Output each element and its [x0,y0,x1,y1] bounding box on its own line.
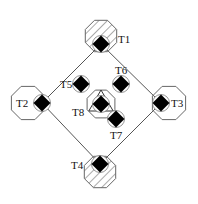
t2-label: T2 [16,97,28,109]
t7-label: T7 [110,129,123,141]
t6-label: T6 [115,64,128,76]
node-square-layer [34,36,170,173]
t3-label: T3 [171,97,184,109]
edge-t1-t3 [101,44,161,103]
t4-label: T4 [71,159,84,171]
t1-label: T1 [118,33,130,45]
t8-label: T8 [72,106,85,118]
diagram-canvas: T1T2T3T4T5T6T7T8 [0,0,198,204]
t5-label: T5 [60,78,73,90]
edge-t2-t4 [42,103,100,164]
edge-t1-t2 [42,44,101,103]
